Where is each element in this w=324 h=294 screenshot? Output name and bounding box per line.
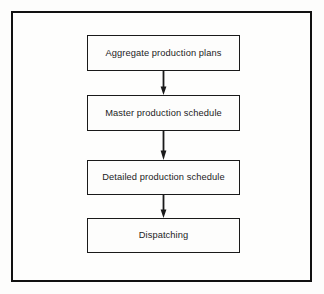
flow-arrow-down-icon-3 bbox=[157, 195, 170, 218]
flow-arrow-down-icon-2 bbox=[157, 131, 170, 160]
flow-arrow-down-icon-1 bbox=[157, 71, 170, 95]
flow-node-detailed-production-schedule[interactable]: Detailed production schedule bbox=[87, 160, 240, 195]
flow-node-master-production-schedule[interactable]: Master production schedule bbox=[87, 95, 240, 131]
flow-node-label: Aggregate production plans bbox=[105, 48, 221, 58]
flow-node-dispatching[interactable]: Dispatching bbox=[87, 218, 240, 253]
flow-node-aggregate-production-plans[interactable]: Aggregate production plans bbox=[87, 35, 240, 71]
flow-node-label: Detailed production schedule bbox=[102, 172, 225, 182]
flowchart: Aggregate production plans Master produc… bbox=[0, 0, 324, 294]
figure-canvas: Aggregate production plans Master produc… bbox=[0, 0, 324, 294]
flow-node-label: Master production schedule bbox=[105, 108, 222, 118]
flow-node-label: Dispatching bbox=[139, 230, 189, 240]
